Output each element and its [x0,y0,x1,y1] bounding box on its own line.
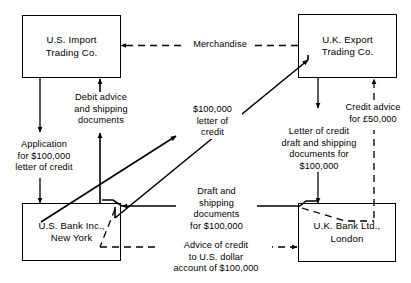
node-uk-bank-london-label: U.K. Bank Ltd., London [314,220,381,245]
node-us-import-trading-co-label: U.S. Import Trading Co. [46,34,97,59]
edge-label-application: Application for $100,000 letter of credi… [2,139,86,174]
letter-of-credit-diagram: U.S. Import Trading Co. U.K. Export Trad… [0,0,411,283]
edge-label-loc-draft-docs: Letter of credit draft and shipping docu… [272,126,366,172]
node-us-bank-new-york-label: U.S. Bank Inc., New York [38,220,104,245]
node-us-import-trading-co[interactable]: U.S. Import Trading Co. [22,15,121,78]
edge-label-merchandise: Merchandise [186,39,254,51]
node-uk-bank-london[interactable]: U.K. Bank Ltd., London [298,203,396,262]
node-uk-export-trading-co-label: U.K. Export Trading Co. [322,34,373,59]
node-uk-export-trading-co[interactable]: U.K. Export Trading Co. [298,14,397,78]
edge-label-advice-of-credit: Advice of credit to U.S. dollar account … [160,240,272,275]
edge-label-draft-shipping-docs: Draft and shipping documents for $100,00… [176,186,257,232]
node-us-bank-new-york[interactable]: U.S. Bank Inc., New York [22,203,121,261]
edge-label-debit-advice: Debit advice and shipping documents [62,92,140,127]
edge-label-letter-of-credit: $100,000 letter of credit [183,104,242,139]
edge-label-credit-advice: Credit advice for £50,000 [337,102,409,125]
